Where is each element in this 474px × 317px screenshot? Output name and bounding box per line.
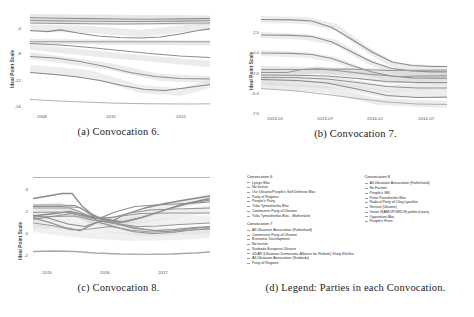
chart-a-ytick-3: -16 — [1, 104, 21, 109]
legend-swatch-icon — [365, 188, 368, 189]
chart-b-caption: (b) Convocation 7. — [237, 128, 474, 139]
chart-c-ytick-1: 2 — [8, 209, 28, 214]
legend-swatch-icon — [365, 183, 368, 184]
legend-swatch-icon — [247, 201, 250, 202]
legend-swatch-icon — [365, 202, 368, 203]
legend-swatch-icon — [365, 193, 368, 194]
legend-swatch-icon — [247, 258, 250, 259]
chart-b-svg — [237, 0, 474, 120]
legend-title-convocation-8: Convocation 8 — [365, 174, 473, 179]
chart-c-ytick-3: -2 — [8, 253, 28, 258]
chart-c-ytick-0: 4 — [8, 187, 28, 192]
chart-b-plot: Ideal Point Scale 2.5 0.0 -2.5 -5.0 -7.5… — [237, 0, 474, 118]
chart-a-xtick-2: 2012 — [176, 114, 186, 119]
legend-swatch-icon — [247, 253, 250, 254]
chart-a-xtick-1: 2010 — [106, 114, 116, 119]
panel-convocation-8: Ideal Point Scale 4 2 0 -2 2015 2016 201… — [0, 160, 237, 317]
panel-convocation-7: Ideal Point Scale 2.5 0.0 -2.5 -5.0 -7.5… — [237, 0, 474, 160]
legend-swatch-icon — [365, 198, 368, 199]
legend-group-convocation-7: Convocation 7 All-Ukrainian Association … — [247, 221, 355, 265]
legend-swatch-icon — [247, 235, 250, 236]
legend-item-label: Yulia Tymoshenko Bloc - Motherland — [252, 214, 310, 219]
legend-swatch-icon — [247, 211, 250, 212]
chart-c-xtick-1: 2016 — [100, 270, 110, 275]
legend-swatch-icon — [365, 207, 368, 208]
chart-c-plot: Ideal Point Scale 4 2 0 -2 2015 2016 201… — [0, 160, 237, 278]
legend-swatch-icon — [247, 239, 250, 240]
legend-swatch-icon — [247, 244, 250, 245]
panel-convocation-6: Ideal Point Scale -4 -8 -12 -16 2008 201… — [0, 0, 237, 160]
chart-a-plot: Ideal Point Scale -4 -8 -12 -16 2008 201… — [0, 0, 237, 118]
chart-a-ytick-2: -12 — [1, 78, 21, 83]
chart-b-xtick-1: 2013-07 — [317, 116, 333, 121]
legend-column-left: Convocation 6 Lytvyn Bloc No faction Our… — [247, 174, 355, 269]
legend-swatch-icon — [247, 197, 250, 198]
legend-title-convocation-7: Convocation 7 — [247, 221, 355, 226]
legend-swatch-icon — [247, 187, 250, 188]
legend-item: People's Front — [365, 219, 473, 224]
legend-swatch-icon — [247, 249, 250, 250]
chart-b-ytick-4: -7.5 — [239, 111, 259, 116]
legend-group-convocation-6: Convocation 6 Lytvyn Bloc No faction Our… — [247, 174, 355, 218]
chart-b-ytick-3: -5.0 — [239, 91, 259, 96]
legend-swatch-icon — [365, 181, 368, 182]
legend-swatch-icon — [247, 206, 250, 207]
legend-swatch-icon — [365, 216, 368, 217]
legend-column-right: Convocation 8 All-Ukrainian Association … — [365, 174, 473, 269]
chart-b-xtick-3: 2014-07 — [418, 116, 434, 121]
chart-a-svg — [0, 0, 237, 120]
chart-a-caption: (a) Convocation 6. — [0, 126, 237, 137]
chart-b-ytick-1: 0.0 — [239, 50, 259, 55]
legend-group-convocation-8: Convocation 8 All-Ukrainian Association … — [365, 174, 473, 224]
legend-swatch-icon — [247, 263, 250, 264]
legend-title-convocation-6: Convocation 6 — [247, 174, 355, 179]
chart-b-xtick-2: 2014-01 — [367, 116, 383, 121]
chart-c-xtick-2: 2017 — [158, 270, 168, 275]
legend-swatch-icon — [365, 221, 368, 222]
chart-a-xtick-0: 2008 — [37, 114, 47, 119]
legend-container: Convocation 6 Lytvyn Bloc No faction Our… — [247, 174, 472, 269]
chart-a-ytick-0: -4 — [1, 26, 21, 31]
chart-c-xtick-0: 2015 — [42, 270, 52, 275]
chart-c-caption: (c) Convocation 8. — [0, 282, 237, 293]
chart-b-ytick-0: 2.5 — [239, 30, 259, 35]
legend-item-label: People's Front — [369, 219, 392, 224]
legend-swatch-icon — [247, 230, 250, 231]
legend-item-label: Party of Regions — [252, 261, 279, 266]
panel-legend: Convocation 6 Lytvyn Bloc No faction Our… — [237, 160, 474, 317]
chart-b-ytick-2: -2.5 — [239, 71, 259, 76]
chart-b-xtick-0: 2013-01 — [267, 116, 283, 121]
legend-swatch-icon — [365, 212, 368, 213]
legend-swatch-icon — [247, 216, 250, 217]
figure-grid: Ideal Point Scale -4 -8 -12 -16 2008 201… — [0, 0, 474, 317]
chart-a-ytick-1: -8 — [1, 51, 21, 56]
legend-item: Yulia Tymoshenko Bloc - Motherland — [247, 214, 355, 219]
legend-swatch-icon — [247, 192, 250, 193]
legend-item: Party of Regions — [247, 261, 355, 266]
chart-c-svg — [0, 160, 237, 275]
chart-c-ytick-2: 0 — [8, 231, 28, 236]
legend-swatch-icon — [247, 182, 250, 183]
legend-caption: (d) Legend: Parties in each Convocation. — [237, 282, 474, 293]
